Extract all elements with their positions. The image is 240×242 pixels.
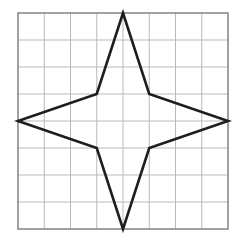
grid: [18, 13, 228, 229]
star-on-grid-figure: [0, 0, 240, 242]
